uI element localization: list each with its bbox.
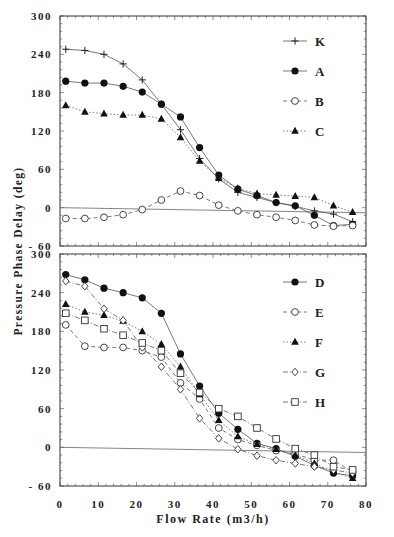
y-tick-label: 120: [31, 364, 52, 376]
y-tick-label: 300: [31, 10, 52, 22]
y-tick-label: - 60: [29, 480, 52, 492]
x-tick-label: 50: [244, 498, 258, 510]
x-tick-label: 80: [359, 498, 373, 510]
legend-item-C: C: [283, 124, 324, 139]
zero-reference-line: [60, 447, 366, 452]
x-tick-label: 20: [130, 498, 144, 510]
legend-item-H: H: [283, 395, 325, 410]
legend-label: A: [315, 64, 325, 79]
y-tick-label: 60: [38, 403, 52, 415]
y-tick-label: 240: [31, 48, 52, 60]
series-C: [62, 101, 356, 215]
y-tick-label: 120: [31, 125, 52, 137]
legend-label: G: [315, 365, 325, 380]
figure: 300240180120600- 60KABC300240180120600- …: [0, 0, 394, 537]
legend-label: K: [315, 34, 326, 49]
y-tick-label: 240: [31, 287, 52, 299]
legend-item-D: D: [283, 275, 324, 290]
legend-label: E: [315, 305, 324, 320]
legend-label: B: [315, 94, 324, 109]
legend-item-F: F: [283, 335, 323, 350]
x-tick-label: 40: [206, 498, 220, 510]
x-tick-label: 30: [168, 498, 182, 510]
x-tick-label: 10: [91, 498, 105, 510]
legend-label: C: [315, 124, 324, 139]
x-tick-label: 70: [321, 498, 335, 510]
y-tick-label: 60: [38, 163, 52, 175]
y-tick-label: 0: [45, 441, 52, 453]
y-axis-label: Pressure Phase Delay (deg): [12, 166, 25, 335]
legend-label: D: [315, 275, 324, 290]
legend-item-A: A: [283, 64, 325, 79]
legend-label: F: [315, 335, 323, 350]
x-tick-label: 60: [283, 498, 297, 510]
legend-item-B: B: [283, 94, 324, 109]
y-tick-label: 180: [31, 87, 52, 99]
series-G: [63, 277, 356, 477]
series-H: [62, 310, 355, 473]
y-tick-label: 0: [45, 202, 52, 214]
x-axis-label: Flow Rate (m3/h): [156, 512, 269, 526]
y-tick-label: 300: [31, 248, 52, 260]
legend-label: H: [315, 395, 325, 410]
legend-item-E: E: [283, 305, 324, 320]
series-A: [62, 78, 356, 230]
legend-item-G: G: [283, 365, 325, 380]
legend-item-K: K: [283, 34, 326, 49]
y-tick-label: 180: [31, 325, 52, 337]
x-tick-label: 0: [57, 498, 64, 510]
